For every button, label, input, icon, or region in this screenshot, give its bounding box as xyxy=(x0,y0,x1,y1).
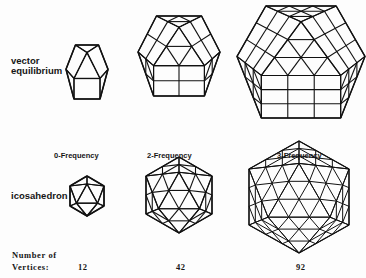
ve-2-frequency-figure xyxy=(138,16,220,96)
vertex-count-0: 12 xyxy=(78,263,88,272)
vertices-label-line2: Vertices: xyxy=(12,263,49,272)
polyhedra-figures xyxy=(0,0,366,278)
vertex-count-3: 92 xyxy=(296,263,306,272)
frequency-label-0: 0-Frequency xyxy=(54,152,99,160)
vertex-count-2: 42 xyxy=(176,263,186,272)
ve-3-frequency-figure xyxy=(237,6,365,118)
row-label-equilibrium: equilibrium xyxy=(11,66,62,76)
vertices-label-line1: Number of xyxy=(12,251,57,260)
frequency-label-2: 2-Frequency xyxy=(147,152,192,160)
ico-0-frequency-figure xyxy=(70,176,104,216)
frequency-diagram: vector equilibrium icosahedron 0-Frequen… xyxy=(0,0,366,278)
frequency-label-3: 3-Frequency xyxy=(277,152,322,160)
ico-2-frequency-figure xyxy=(146,157,212,233)
ve-0-frequency-figure xyxy=(66,45,108,99)
row-label-icosahedron: icosahedron xyxy=(11,191,68,201)
